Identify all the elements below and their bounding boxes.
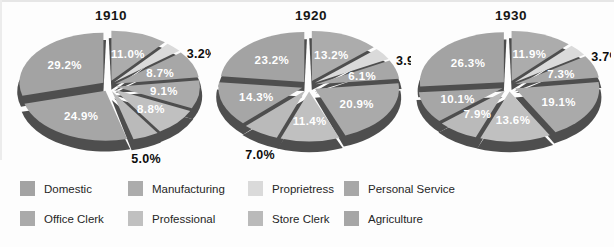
legend-swatch-proprietress bbox=[248, 181, 263, 196]
pie-label-proprietress: 3.2% bbox=[187, 47, 211, 61]
legend-item-domestic: Domestic bbox=[20, 181, 92, 196]
scan-edge-top bbox=[0, 0, 614, 2]
pie-title-1920: 1920 bbox=[211, 8, 411, 26]
pie-label-manufacturing: 11.9% bbox=[512, 48, 546, 60]
pie-label-manufacturing: 11.0% bbox=[111, 48, 145, 60]
legend-item-office-clerk: Office Clerk bbox=[20, 211, 104, 226]
pie-label-professional: 8.8% bbox=[137, 103, 165, 115]
pie-label-office-clerk: 20.9% bbox=[339, 98, 374, 110]
legend-label-manufacturing: Manufacturing bbox=[152, 183, 225, 195]
pie-label-domestic: 26.3% bbox=[451, 57, 486, 69]
legend-label-professional: Professional bbox=[152, 213, 215, 225]
pie-svg-1930: 11.9%3.7%7.3%19.1%13.6%7.9%10.1%26.3% bbox=[411, 26, 611, 178]
pie-label-office-clerk: 9.1% bbox=[150, 85, 178, 97]
pie-label-professional: 11.4% bbox=[293, 115, 327, 127]
pie-label-store-clerk: 7.9% bbox=[463, 108, 491, 120]
legend-swatch-manufacturing bbox=[128, 181, 143, 196]
pie-label-domestic: 23.2% bbox=[255, 54, 290, 66]
legend-label-store-clerk: Store Clerk bbox=[272, 213, 330, 225]
pie-label-agriculture: 10.1% bbox=[440, 93, 475, 105]
legend-item-agriculture: Agriculture bbox=[344, 211, 423, 226]
pie-chart-1910: 1910 11.0%3.2%8.7%9.1%8.8%5.0%24.9%29.2% bbox=[11, 8, 211, 180]
legend-label-personal-service: Personal Service bbox=[368, 183, 455, 195]
pie-label-personal-service: 8.7% bbox=[146, 67, 174, 79]
legend-label-office-clerk: Office Clerk bbox=[44, 213, 104, 225]
pie-label-office-clerk: 19.1% bbox=[541, 96, 576, 108]
pie-chart-1930: 1930 11.9%3.7%7.3%19.1%13.6%7.9%10.1%26.… bbox=[411, 8, 611, 180]
pie-label-agriculture: 24.9% bbox=[64, 110, 99, 122]
pie-label-domestic: 29.2% bbox=[47, 59, 82, 71]
legend-swatch-office-clerk bbox=[20, 211, 35, 226]
legend-item-proprietress: Proprietress bbox=[248, 181, 334, 196]
legend-item-professional: Professional bbox=[128, 211, 215, 226]
pie-label-proprietress: 3.7% bbox=[591, 50, 611, 64]
pie-chart-1920: 1920 13.2%3.9%6.1%20.9%11.4%7.0%14.3%23.… bbox=[211, 8, 411, 180]
pie-title-1910: 1910 bbox=[11, 8, 211, 26]
legend-swatch-store-clerk bbox=[248, 211, 263, 226]
figure-canvas: 1910 11.0%3.2%8.7%9.1%8.8%5.0%24.9%29.2%… bbox=[0, 0, 614, 247]
pie-label-agriculture: 14.3% bbox=[239, 91, 274, 103]
pie-label-proprietress: 3.9% bbox=[396, 54, 411, 68]
legend-swatch-professional bbox=[128, 211, 143, 226]
legend-item-manufacturing: Manufacturing bbox=[128, 181, 225, 196]
legend-item-store-clerk: Store Clerk bbox=[248, 211, 330, 226]
pie-label-professional: 13.6% bbox=[496, 114, 531, 126]
pie-title-1930: 1930 bbox=[411, 8, 611, 26]
legend-label-domestic: Domestic bbox=[44, 183, 92, 195]
legend-swatch-agriculture bbox=[344, 211, 359, 226]
legend-label-proprietress: Proprietress bbox=[272, 183, 334, 195]
legend-label-agriculture: Agriculture bbox=[368, 213, 423, 225]
pie-label-personal-service: 6.1% bbox=[348, 70, 376, 82]
scan-edge-left bbox=[0, 0, 2, 160]
pie-svg-1920: 13.2%3.9%6.1%20.9%11.4%7.0%14.3%23.2% bbox=[211, 26, 411, 178]
pie-label-manufacturing: 13.2% bbox=[314, 49, 349, 61]
pie-svg-1910: 11.0%3.2%8.7%9.1%8.8%5.0%24.9%29.2% bbox=[11, 26, 211, 178]
pie-label-store-clerk: 5.0% bbox=[131, 152, 161, 166]
legend-swatch-personal-service bbox=[344, 181, 359, 196]
legend-item-personal-service: Personal Service bbox=[344, 181, 455, 196]
legend-swatch-domestic bbox=[20, 181, 35, 196]
pie-label-personal-service: 7.3% bbox=[547, 68, 575, 80]
pie-label-store-clerk: 7.0% bbox=[245, 148, 275, 162]
